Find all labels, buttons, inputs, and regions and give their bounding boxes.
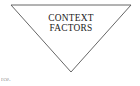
triangle-label: CONTEXT FACTORS (16, 13, 126, 33)
triangle-label-line-1: CONTEXT (16, 13, 126, 23)
triangle-label-line-2: FACTORS (16, 23, 126, 33)
diagram-canvas: CONTEXT FACTORS rce. (0, 0, 140, 86)
source-note-fragment: rce. (1, 75, 11, 82)
